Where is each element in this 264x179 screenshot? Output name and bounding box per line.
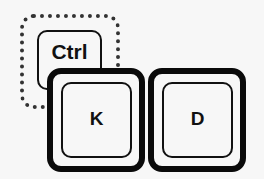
ctrl-key-label: Ctrl [37,40,102,64]
k-key-label: K [61,108,132,130]
d-key-label: D [162,108,233,130]
